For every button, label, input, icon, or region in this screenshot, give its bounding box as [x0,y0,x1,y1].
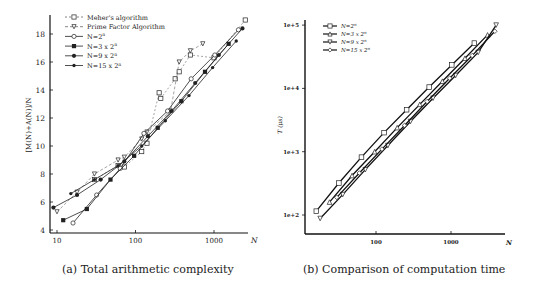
y-axis-label: T (μs) [276,116,284,134]
legend-label: N=9 x 2n [87,52,117,61]
legend-label: N=15 x 2n [87,62,121,71]
y-tick-label: 1e+4 [283,85,299,91]
legend-label: Prime Factor Algorithm [87,23,165,31]
y-tick-label: 1e+3 [283,149,299,155]
legend-label: N=3 x 2n [87,42,117,51]
legend-a: Meher's algorithmPrime Factor AlgorithmN… [65,14,165,71]
x-axis-label: N [505,239,513,247]
x-tick-label: 100 [129,237,142,245]
legend-label: N=2n [340,22,357,29]
y-tick-label: 6 [40,198,45,207]
legend-label: N=9 x 2n [340,38,367,45]
y-tick-label: 8 [40,170,45,179]
x-axis-label: N [250,236,258,245]
chart-b: 1e+21e+31e+41e+51001000NT (μs)N=2nN=3 x … [276,20,513,247]
x-tick-label: 1000 [443,239,458,245]
x-tick-label: 10 [53,237,62,245]
y-tick-label: 12 [35,114,45,123]
x-tick-label: 1000 [205,237,223,245]
legend-label: N=2n [87,32,105,41]
series-1 [327,33,490,205]
y-tick-label: 14 [35,86,45,95]
y-tick-label: 16 [35,58,45,67]
legend-label: N=15 x 2n [340,46,371,53]
x-tick-label: 100 [370,239,382,245]
y-tick-label: 1e+2 [283,212,299,218]
y-tick-label: 4 [40,226,45,235]
caption-b: (b) Comparison of computation time [303,263,505,276]
y-tick-label: 1e+5 [283,22,299,28]
caption-a: (a) Total arithmetic complexity [62,263,234,276]
y-tick-label: 10 [35,142,45,151]
legend-b: N=2nN=3 x 2nN=9 x 2nN=15 x 2n [323,22,371,53]
y-tick-label: 18 [35,30,45,39]
series-1 [55,42,205,214]
series-3 [334,29,497,200]
series-0 [314,41,477,214]
y-axis-label: [M(N)+A(N)]/N [25,97,33,152]
legend-label: N=3 x 2n [340,30,367,37]
legend-label: Meher's algorithm [87,14,148,22]
figure-canvas: 4681012141618101001000N[M(N)+A(N)]/NMehe… [0,0,537,296]
chart-a: 4681012141618101001000N[M(N)+A(N)]/NMehe… [25,14,258,246]
